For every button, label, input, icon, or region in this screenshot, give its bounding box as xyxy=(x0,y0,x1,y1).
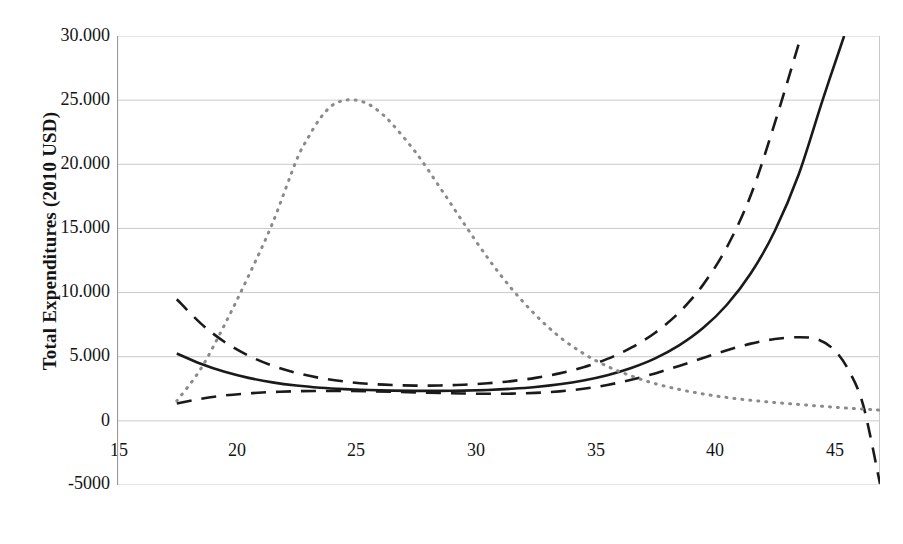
y-axis-tick-labels: 30.000 25.000 20.000 15.000 10.000 5.000… xyxy=(0,0,110,544)
y-tick-label: 5.000 xyxy=(10,345,110,366)
y-tick-label: 30.000 xyxy=(10,25,110,46)
chart-canvas xyxy=(117,36,880,485)
gridlines xyxy=(117,36,880,485)
chart-figure: Total Expenditures (2010 USD) 30.000 25.… xyxy=(0,0,903,544)
plot-area xyxy=(117,36,880,485)
y-tick-label: 0 xyxy=(10,410,110,431)
y-tick-label: 25.000 xyxy=(10,89,110,110)
y-tick-label: 10.000 xyxy=(10,281,110,302)
series-curve-2 xyxy=(177,337,880,484)
y-tick-label: -5000 xyxy=(10,473,110,494)
figure-caption xyxy=(0,528,903,544)
plot-frame xyxy=(118,36,880,485)
series-curve-3 xyxy=(177,100,880,410)
series-curve-1 xyxy=(177,36,801,386)
y-tick-label: 20.000 xyxy=(10,153,110,174)
y-tick-label: 15.000 xyxy=(10,217,110,238)
